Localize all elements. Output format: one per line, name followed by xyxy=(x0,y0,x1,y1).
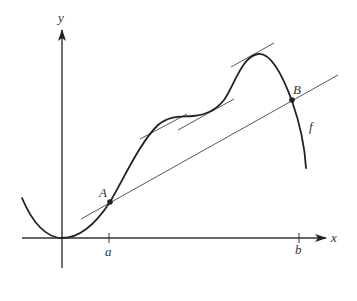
point-label-b: B xyxy=(293,82,301,97)
curve-label-f: f xyxy=(309,119,315,134)
mvt-diagram: y x a b A B f xyxy=(0,0,357,301)
point-a xyxy=(107,199,113,205)
y-axis-label: y xyxy=(56,10,64,25)
curve-f xyxy=(22,54,306,238)
point-b xyxy=(289,97,295,103)
tick-label-b: b xyxy=(295,242,302,257)
point-label-a: A xyxy=(98,185,107,200)
x-axis-label: x xyxy=(330,230,337,245)
tick-label-a: a xyxy=(105,244,112,259)
tangent-line-1 xyxy=(140,114,187,139)
